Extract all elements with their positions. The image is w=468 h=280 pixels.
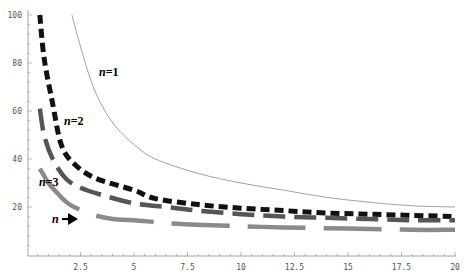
x-tick-label: 15 bbox=[343, 263, 353, 272]
x-tick-label: 5 bbox=[132, 263, 137, 272]
arrow-icon bbox=[62, 213, 78, 225]
chart: 2.557.51012.51517.520 20406080100 n=1 n=… bbox=[0, 0, 468, 280]
y-tick-label: 40 bbox=[12, 155, 22, 164]
series-group bbox=[40, 15, 455, 230]
x-tick-label: 7.5 bbox=[180, 263, 195, 272]
series-n2 bbox=[40, 15, 455, 217]
x-tick-label: 10 bbox=[236, 263, 246, 272]
label-n1: n=1 bbox=[99, 65, 119, 79]
label-n3: n=3 bbox=[39, 175, 59, 189]
y-tick-label: 80 bbox=[12, 59, 22, 68]
label-ninf: n bbox=[52, 212, 59, 226]
y-tick-label: 60 bbox=[12, 107, 22, 116]
x-ticks: 2.557.51012.51517.520 bbox=[38, 252, 460, 272]
axes: 2.557.51012.51517.520 20406080100 bbox=[8, 10, 460, 272]
y-tick-label: 100 bbox=[8, 11, 23, 20]
x-tick-label: 17.5 bbox=[392, 263, 411, 272]
x-tick-label: 20 bbox=[450, 263, 460, 272]
x-tick-label: 12.5 bbox=[285, 263, 304, 272]
series-n1 bbox=[72, 15, 455, 207]
x-tick-label: 2.5 bbox=[73, 263, 88, 272]
label-n2: n=2 bbox=[64, 114, 84, 128]
y-tick-label: 20 bbox=[12, 203, 22, 212]
series-n3 bbox=[40, 109, 455, 221]
